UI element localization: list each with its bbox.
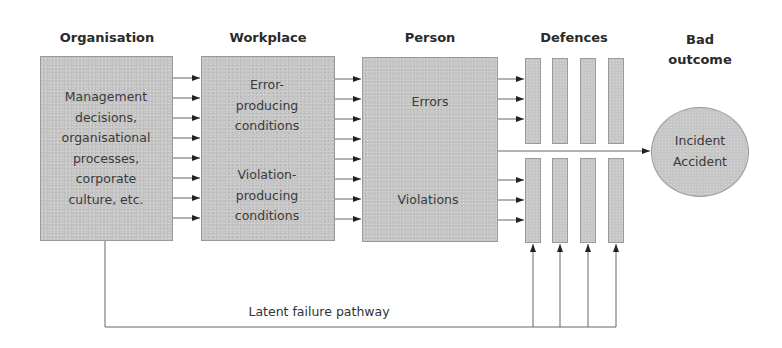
swiss-cheese-diagram: Organisation Workplace Person Defences B… [0,0,782,348]
connector-arrows [0,0,782,348]
latent-failure-pathway-label: Latent failure pathway [248,304,389,319]
